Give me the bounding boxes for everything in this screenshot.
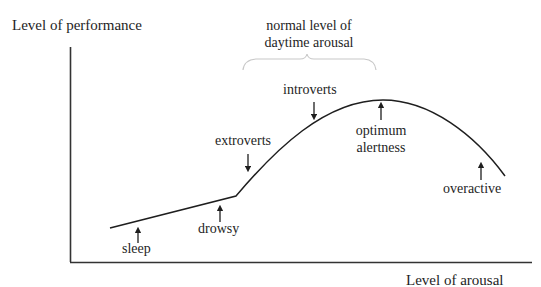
daytime-arousal-brace <box>243 54 376 70</box>
performance-curve <box>110 100 505 228</box>
drowsy-label: drowsy <box>198 220 239 237</box>
brace-label-line1: normal level of <box>256 17 362 34</box>
optimum-alertness-label: optimum alertness <box>350 122 412 156</box>
brace-label: normal level of daytime arousal <box>256 17 362 51</box>
optimum-label-line1: optimum <box>350 122 412 139</box>
x-axis-label: Level of arousal <box>406 272 503 287</box>
overactive-label: overactive <box>443 180 501 197</box>
y-axis-label: Level of performance <box>12 17 142 34</box>
brace-label-line2: daytime arousal <box>256 34 362 51</box>
introverts-label: introverts <box>283 81 337 98</box>
extroverts-label: extroverts <box>215 132 271 149</box>
optimum-label-line2: alertness <box>350 139 412 156</box>
sleep-label: sleep <box>122 240 151 257</box>
